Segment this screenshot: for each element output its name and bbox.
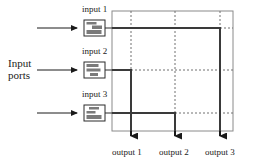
input-ports-label-line2: ports: [8, 70, 31, 82]
input-ports-label: Input ports: [8, 58, 31, 81]
input-port-icon-3: [84, 105, 112, 121]
input-1-label: input 1: [82, 5, 107, 14]
output-arrows: [131, 131, 220, 136]
output-3-label: output 3: [205, 148, 235, 157]
input-ports-label-line1: Input: [8, 58, 31, 70]
input-2-label: input 2: [82, 47, 107, 56]
crossbar-switch-diagram: [0, 0, 254, 168]
input-port-icon-2: [84, 62, 112, 78]
input-3-label: input 3: [82, 90, 107, 99]
input-arrows: [37, 28, 77, 113]
input-port-icon-1: [84, 20, 112, 36]
output-1-label: output 1: [112, 148, 142, 157]
output-2-label: output 2: [159, 148, 189, 157]
